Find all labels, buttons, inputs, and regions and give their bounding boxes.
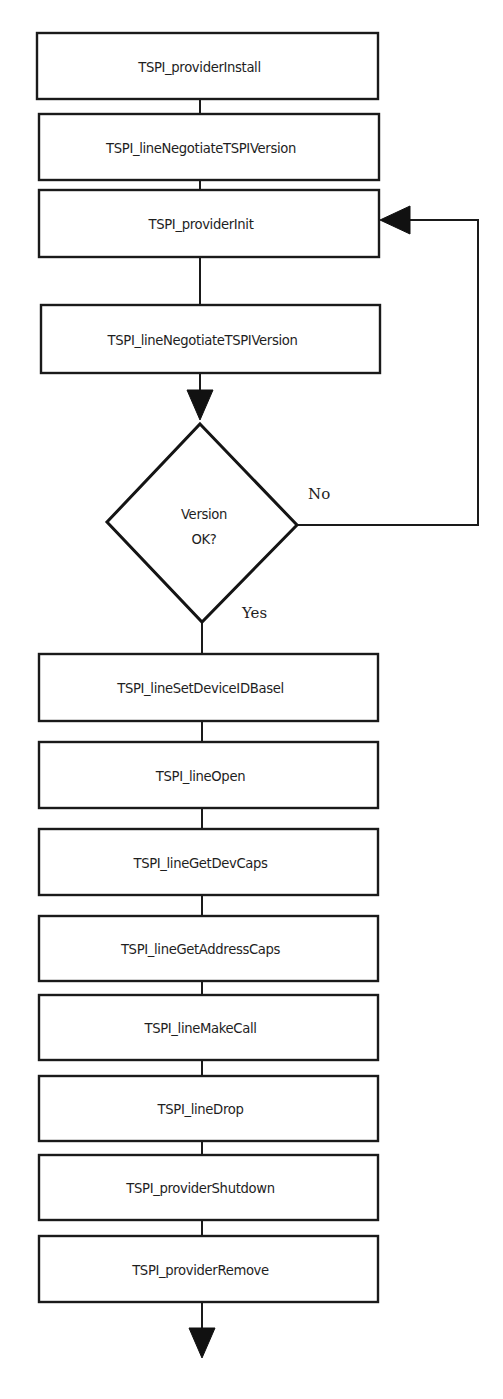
process-box-label: TSPI_providerInstall bbox=[137, 60, 261, 75]
process-box-label: TSPI_lineDrop bbox=[157, 1102, 244, 1117]
process-box-label: TSPI_providerShutdown bbox=[125, 1181, 274, 1196]
flowchart-canvas: TSPI_providerInstallTSPI_lineNegotiateTS… bbox=[0, 0, 503, 1399]
process-box: TSPI_lineOpen bbox=[39, 742, 378, 808]
decision-label-line2: OK? bbox=[192, 532, 217, 547]
process-box: TSPI_lineGetAddressCaps bbox=[39, 916, 378, 981]
process-box: TSPI_lineDrop bbox=[39, 1076, 378, 1141]
process-boxes: TSPI_providerInstallTSPI_lineNegotiateTS… bbox=[37, 33, 380, 1302]
process-box-label: TSPI_lineGetDevCaps bbox=[132, 856, 268, 871]
decision-label-line1: Version bbox=[181, 507, 227, 522]
process-box-label: TSPI_lineGetAddressCaps bbox=[120, 942, 281, 957]
process-box: TSPI_providerInstall bbox=[37, 33, 378, 99]
process-box: TSPI_lineNegotiateTSPIVersion bbox=[41, 305, 380, 373]
process-box-label: TSPI_lineNegotiateTSPIVersion bbox=[107, 333, 298, 348]
process-box-label: TSPI_providerRemove bbox=[131, 1263, 269, 1278]
process-box-label: TSPI_providerInit bbox=[148, 217, 254, 232]
process-box-label: TSPI_lineOpen bbox=[155, 769, 245, 784]
process-box: TSPI_lineMakeCall bbox=[39, 995, 378, 1060]
process-box: TSPI_lineNegotiateTSPIVersion bbox=[39, 114, 379, 180]
process-box: TSPI_providerShutdown bbox=[39, 1155, 378, 1220]
decision-node: Version OK? No Yes bbox=[107, 424, 330, 622]
process-box: TSPI_lineSetDeviceIDBasel bbox=[39, 654, 378, 721]
process-box: TSPI_providerInit bbox=[39, 190, 379, 257]
arrow-down-icon bbox=[189, 1328, 215, 1358]
process-box-label: TSPI_lineSetDeviceIDBasel bbox=[116, 681, 284, 696]
arrow-down-icon bbox=[187, 390, 213, 420]
process-box: TSPI_providerRemove bbox=[39, 1236, 378, 1302]
arrow-left-icon bbox=[380, 206, 410, 234]
process-box: TSPI_lineGetDevCaps bbox=[39, 829, 378, 895]
branch-label-yes: Yes bbox=[241, 604, 267, 622]
decision-diamond bbox=[107, 424, 297, 622]
branch-label-no: No bbox=[308, 485, 330, 503]
process-box-label: TSPI_lineMakeCall bbox=[143, 1021, 256, 1036]
process-box-label: TSPI_lineNegotiateTSPIVersion bbox=[105, 141, 296, 156]
